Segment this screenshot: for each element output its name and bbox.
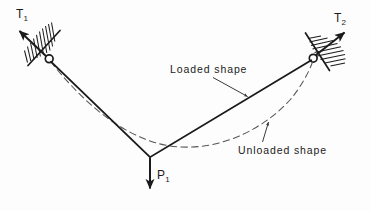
tension-right-label: T2 <box>334 12 346 27</box>
unloaded-shape-label: Unloaded shape <box>238 145 327 156</box>
tension-right-subscript: 2 <box>342 18 346 27</box>
load-label: P1 <box>157 169 170 184</box>
tension-left-label: T1 <box>16 8 28 23</box>
left-support <box>25 23 61 66</box>
tension-left-symbol: T <box>16 7 24 21</box>
cable-load-diagram: T1 T2 P1 Loaded shape Unloaded shape <box>0 0 370 211</box>
tension-right-symbol: T <box>334 11 342 25</box>
diagram-canvas <box>0 0 370 211</box>
tension-left-subscript: 1 <box>24 14 28 23</box>
load-symbol: P <box>157 168 165 182</box>
loaded-shape-leader <box>213 78 248 97</box>
loaded-shape-label: Loaded shape <box>170 64 247 75</box>
load-subscript: 1 <box>165 175 169 184</box>
unloaded-shape-leader <box>263 122 269 142</box>
